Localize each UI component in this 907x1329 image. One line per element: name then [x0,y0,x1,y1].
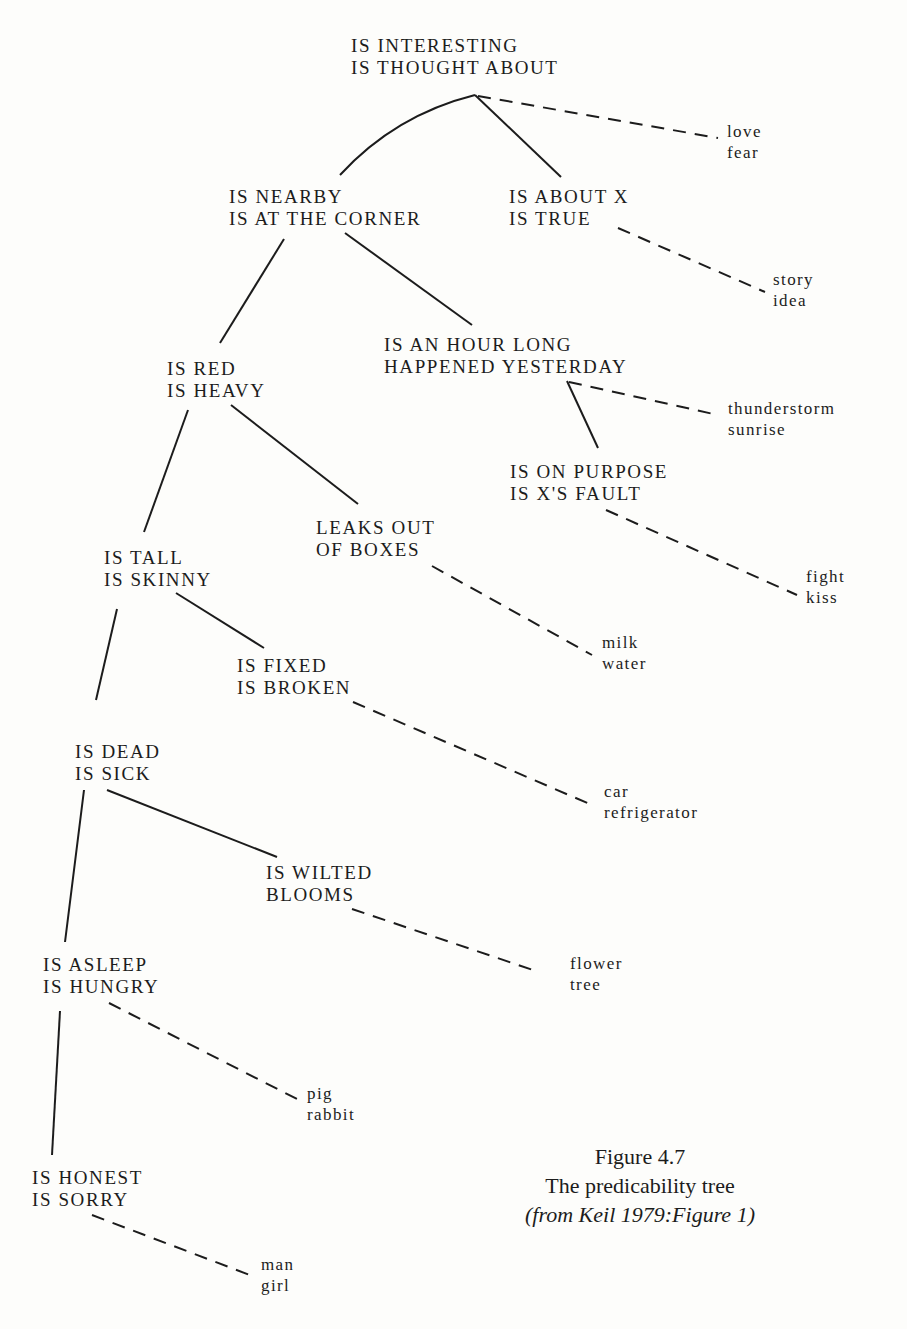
tree-branch-solid [96,609,117,700]
predicate-label: OF BOXES [316,539,435,561]
predicate-label: LEAKS OUT [316,517,435,539]
predicate-label: IS INTERESTING [351,35,559,57]
term-group-flower: flowertree [570,953,623,995]
predicability-tree-diagram: IS INTERESTINGIS THOUGHT ABOUTIS NEARBYI… [0,0,907,1329]
predicate-label: IS AT THE CORNER [229,208,421,230]
term-word: sunrise [728,419,835,440]
predicate-label: HAPPENED YESTERDAY [384,356,627,378]
predicate-label: BLOOMS [266,884,373,906]
predicate-label: IS HONEST [32,1167,143,1189]
term-word: fear [727,142,762,163]
predicate-label: IS ON PURPOSE [510,461,668,483]
predicate-node-hour: IS AN HOUR LONGHAPPENED YESTERDAY [384,334,627,378]
term-word: milk [602,632,647,653]
term-group-love: lovefear [727,121,762,163]
predicate-label: IS THOUGHT ABOUT [351,57,559,79]
term-word: love [727,121,762,142]
term-link-dashed [353,702,592,805]
predicate-label: IS FIXED [237,655,351,677]
predicate-label: IS DEAD [75,741,161,763]
tree-branch-solid [144,410,188,532]
term-group-thunder: thunderstormsunrise [728,398,835,440]
term-word: story [773,269,814,290]
tree-branch-solid [107,790,277,857]
tree-branch-solid [340,95,475,175]
predicate-node-tall: IS TALLIS SKINNY [104,547,212,591]
figure-caption: Figure 4.7 The predicability tree (from … [490,1142,790,1229]
predicate-node-honest: IS HONESTIS SORRY [32,1167,143,1211]
predicate-label: IS ABOUT X [509,186,629,208]
predicate-label: IS TRUE [509,208,629,230]
term-word: fight [806,566,845,587]
tree-branch-solid [231,405,358,504]
term-word: tree [570,974,623,995]
term-word: refrigerator [604,802,698,823]
tree-branch-solid [176,593,264,648]
figure-source: (from Keil 1979:Figure 1) [490,1200,790,1229]
predicate-label: IS HUNGRY [43,976,159,998]
predicate-label: IS BROKEN [237,677,351,699]
term-word: flower [570,953,623,974]
term-group-pig: pigrabbit [307,1083,355,1125]
term-word: man [261,1254,294,1275]
term-group-milk: milkwater [602,632,647,674]
predicate-node-about: IS ABOUT XIS TRUE [509,186,629,230]
figure-title: The predicability tree [490,1171,790,1200]
tree-branch-solid [52,1011,60,1155]
predicate-node-leaks: LEAKS OUTOF BOXES [316,517,435,561]
predicate-label: IS WILTED [266,862,373,884]
predicate-node-wilted: IS WILTEDBLOOMS [266,862,373,906]
predicate-label: IS RED [167,358,266,380]
term-word: pig [307,1083,355,1104]
predicate-node-root: IS INTERESTINGIS THOUGHT ABOUT [351,35,559,79]
predicate-label: IS SORRY [32,1189,143,1211]
term-word: rabbit [307,1104,355,1125]
term-link-dashed [606,510,797,595]
tree-branch-solid [345,233,472,325]
term-link-dashed [352,909,536,971]
term-word: thunderstorm [728,398,835,419]
term-word: idea [773,290,814,311]
term-word: car [604,781,698,802]
tree-branch-solid [567,381,598,448]
term-link-dashed [569,382,718,415]
predicate-label: IS HEAVY [167,380,266,402]
tree-edges [0,0,907,1329]
predicate-label: IS AN HOUR LONG [384,334,627,356]
predicate-label: IS ASLEEP [43,954,159,976]
predicate-node-fixed: IS FIXEDIS BROKEN [237,655,351,699]
term-group-story: storyidea [773,269,814,311]
term-group-man: mangirl [261,1254,294,1296]
predicate-node-asleep: IS ASLEEPIS HUNGRY [43,954,159,998]
predicate-node-purpose: IS ON PURPOSEIS X'S FAULT [510,461,668,505]
predicate-label: IS X'S FAULT [510,483,668,505]
predicate-label: IS SKINNY [104,569,212,591]
term-word: girl [261,1275,294,1296]
term-link-dashed [92,1215,255,1277]
predicate-node-nearby: IS NEARBYIS AT THE CORNER [229,186,421,230]
tree-branch-solid [65,790,84,942]
predicate-label: IS TALL [104,547,212,569]
predicate-label: IS NEARBY [229,186,421,208]
term-group-fight: fightkiss [806,566,845,608]
predicate-node-dead: IS DEADIS SICK [75,741,161,785]
term-link-dashed [109,1003,297,1099]
figure-number: Figure 4.7 [490,1142,790,1171]
term-link-dashed [432,566,592,655]
term-word: water [602,653,647,674]
term-group-car: carrefrigerator [604,781,698,823]
term-word: kiss [806,587,845,608]
predicate-label: IS SICK [75,763,161,785]
predicate-node-red: IS REDIS HEAVY [167,358,266,402]
term-link-dashed [618,228,765,292]
tree-branch-solid [220,239,284,343]
